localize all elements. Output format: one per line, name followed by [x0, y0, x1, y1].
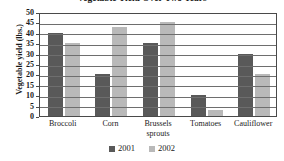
- y-axis-tick-label: 40: [26, 30, 34, 38]
- gridline: [40, 45, 276, 46]
- y-axis-tick-mark: [36, 55, 39, 56]
- chart-legend: 20012002: [0, 144, 284, 153]
- y-axis-tick-mark: [36, 65, 39, 66]
- legend-item-2001[interactable]: 2001: [109, 144, 135, 153]
- y-axis-tick-label: 10: [26, 92, 34, 100]
- y-axis-tick-mark: [36, 75, 39, 76]
- y-axis-tick-mark: [36, 34, 39, 35]
- gridline: [40, 66, 276, 67]
- y-axis-tick-label: 30: [26, 51, 34, 59]
- y-axis-title: Vegetable yield (lbs.): [15, 8, 24, 112]
- gridline: [40, 97, 276, 98]
- y-axis-tick-label: 45: [26, 19, 34, 27]
- y-axis-tick-label: 25: [26, 61, 34, 69]
- y-axis-tick-mark: [36, 117, 39, 118]
- plot-area: [39, 13, 277, 117]
- bar-brussels-sprouts-2002: [160, 22, 175, 116]
- y-axis-tick-label: 15: [26, 82, 34, 90]
- gridline: [40, 55, 276, 56]
- plot-wrapper: 05101520253035404550: [39, 13, 277, 117]
- legend-item-2002[interactable]: 2002: [149, 144, 175, 153]
- y-axis-tick-mark: [36, 13, 39, 14]
- gridline: [40, 107, 276, 108]
- x-axis-label-line: sprouts: [128, 129, 188, 139]
- y-axis-tick-mark: [36, 86, 39, 87]
- y-axis-tick-label: 5: [30, 103, 34, 111]
- gridline: [40, 86, 276, 87]
- bar-tomatoes-2002: [208, 110, 223, 116]
- y-axis-tick-mark: [36, 96, 39, 97]
- x-axis-label-cauliflower: Cauliflower: [223, 119, 283, 129]
- gridline: [40, 34, 276, 35]
- legend-label: 2002: [158, 144, 175, 153]
- bar-cauliflower-2002: [255, 74, 270, 116]
- legend-swatch-icon: [109, 146, 115, 152]
- gridline: [40, 24, 276, 25]
- bar-corn-2002: [112, 27, 127, 116]
- gridline: [40, 76, 276, 77]
- legend-swatch-icon: [149, 146, 155, 152]
- y-axis-tick-mark: [36, 23, 39, 24]
- x-axis-label-line: Cauliflower: [223, 119, 283, 129]
- bar-tomatoes-2001: [191, 95, 206, 116]
- bar-corn-2001: [95, 74, 110, 116]
- bar-chart: Vegetable Yield Over Two Years Vegetable…: [0, 0, 284, 161]
- y-axis-tick-label: 20: [26, 71, 34, 79]
- y-axis-tick-mark: [36, 107, 39, 108]
- chart-title: Vegetable Yield Over Two Years: [0, 0, 284, 4]
- y-axis-tick-label: 35: [26, 40, 34, 48]
- y-axis-tick-mark: [36, 44, 39, 45]
- y-axis-tick-label: 50: [26, 9, 34, 17]
- legend-label: 2001: [118, 144, 135, 153]
